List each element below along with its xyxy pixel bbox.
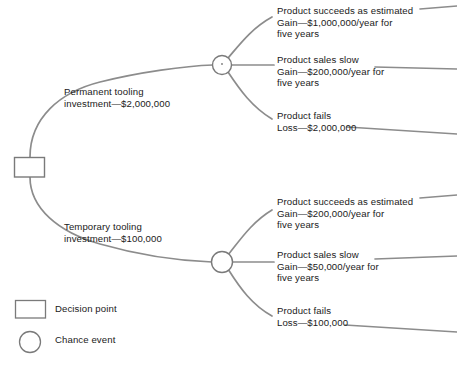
outcome-permanent-slow: Product sales slowGain—$200,000/year for… bbox=[277, 54, 384, 89]
outcome-permanent-succeeds-line1: Product succeeds as estimated bbox=[277, 5, 413, 16]
root-decision-node[interactable] bbox=[15, 158, 45, 178]
outcome-temporary-fails-line2: Loss—$100,000 bbox=[277, 317, 348, 328]
outcome-permanent-fails-line2: Loss—$2,000,000 bbox=[277, 122, 356, 133]
edge-root-to-permanent bbox=[30, 65, 213, 157]
outcome-permanent-slow-line2: Gain—$200,000/year for bbox=[277, 66, 384, 77]
edge-root-to-temporary bbox=[30, 177, 212, 262]
edge-permanent-to-fails bbox=[228, 72, 272, 119]
outcome-temporary-fails-line1: Product fails bbox=[277, 305, 331, 316]
terminal-stub-temporary-slow bbox=[375, 256, 457, 259]
outcome-temporary-slow-line2: Gain—$50,000/year for bbox=[277, 261, 379, 272]
branch-label-temporary-line2: investment—$100,000 bbox=[64, 233, 162, 244]
outcome-temporary-slow-line1: Product sales slow bbox=[277, 249, 359, 260]
legend-decision-point-icon bbox=[16, 301, 46, 319]
outcome-temporary-succeeds-line1: Product succeeds as estimated bbox=[277, 196, 413, 207]
outcome-temporary-succeeds-line3: five years bbox=[277, 219, 319, 230]
branch-label-temporary-tooling: Temporary toolinginvestment—$100,000 bbox=[64, 221, 162, 244]
legend-label-chance-event: Chance event bbox=[55, 334, 115, 346]
branch-label-permanent-line2: investment—$2,000,000 bbox=[64, 98, 170, 109]
decision-tree-diagram: Permanent toolinginvestment—$2,000,000 T… bbox=[0, 0, 457, 369]
legend-chance-event-icon bbox=[20, 332, 41, 353]
outcome-permanent-slow-line3: five years bbox=[277, 77, 319, 88]
outcome-permanent-succeeds: Product succeeds as estimatedGain—$1,000… bbox=[277, 5, 413, 40]
legend-label-decision-point: Decision point bbox=[55, 303, 117, 315]
outcome-permanent-succeeds-line3: five years bbox=[277, 28, 319, 39]
terminal-stub-permanent-slow bbox=[375, 67, 457, 69]
edge-temporary-to-succeeds bbox=[228, 210, 272, 255]
edge-temporary-to-fails bbox=[228, 269, 272, 316]
branch-label-permanent-tooling: Permanent toolinginvestment—$2,000,000 bbox=[64, 86, 170, 109]
outcome-permanent-fails-line1: Product fails bbox=[277, 110, 331, 121]
outcome-temporary-slow-line3: five years bbox=[277, 272, 319, 283]
edge-permanent-to-succeeds bbox=[228, 17, 272, 58]
terminal-stub-permanent-fails bbox=[347, 127, 457, 134]
outcome-permanent-slow-line1: Product sales slow bbox=[277, 54, 359, 65]
outcome-permanent-fails: Product failsLoss—$2,000,000 bbox=[277, 110, 356, 133]
branch-label-temporary-line1: Temporary tooling bbox=[64, 221, 142, 232]
terminal-stub-temporary-succeeds bbox=[420, 195, 457, 198]
chance-node-permanent-dot bbox=[221, 63, 223, 65]
outcome-temporary-slow: Product sales slowGain—$50,000/year forf… bbox=[277, 249, 379, 284]
terminal-stub-temporary-fails bbox=[345, 325, 457, 332]
outcome-temporary-succeeds: Product succeeds as estimatedGain—$200,0… bbox=[277, 196, 413, 231]
terminal-stub-permanent-succeeds bbox=[420, 6, 457, 9]
outcome-temporary-succeeds-line2: Gain—$200,000/year for bbox=[277, 208, 384, 219]
branch-label-permanent-line1: Permanent tooling bbox=[64, 86, 144, 97]
outcome-permanent-succeeds-line2: Gain—$1,000,000/year for bbox=[277, 17, 392, 28]
outcome-temporary-fails: Product failsLoss—$100,000 bbox=[277, 305, 348, 328]
chance-node-permanent[interactable] bbox=[213, 56, 232, 75]
chance-node-temporary[interactable] bbox=[212, 252, 233, 273]
